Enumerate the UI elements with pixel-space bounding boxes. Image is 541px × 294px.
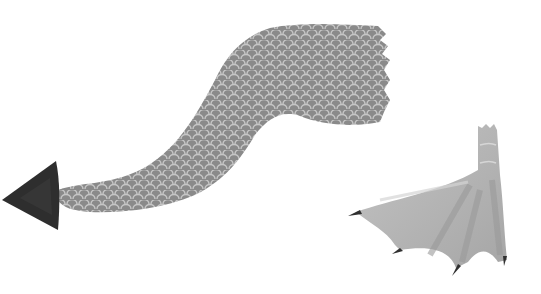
serpent-tail xyxy=(2,24,390,230)
claw-4 xyxy=(503,256,507,266)
illustration-canvas xyxy=(0,0,541,294)
claw-1 xyxy=(348,210,362,216)
tail-body xyxy=(58,24,390,212)
webbed-foot xyxy=(348,124,507,276)
